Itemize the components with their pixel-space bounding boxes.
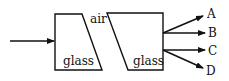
- ray-b-label: B: [208, 26, 217, 40]
- ray-a-label: A: [206, 7, 216, 21]
- ray-d-arrow: [163, 50, 203, 68]
- refraction-diagram: glass air glass A B C D: [0, 0, 229, 81]
- ray-d-label: D: [206, 64, 216, 78]
- air-label: air: [90, 12, 107, 26]
- ray-a-arrow: [163, 16, 203, 33]
- left-glass-label: glass: [63, 54, 94, 68]
- ray-c-label: C: [208, 44, 217, 58]
- right-glass-label: glass: [133, 54, 164, 68]
